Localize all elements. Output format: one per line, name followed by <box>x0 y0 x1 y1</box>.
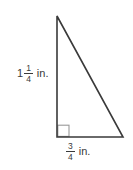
left-side-fraction-denominator: 4 <box>24 74 33 84</box>
bottom-side-unit: in. <box>79 146 91 157</box>
left-side-whole-number: 1 <box>17 68 23 79</box>
bottom-side-fraction: 3 4 <box>66 142 75 162</box>
bottom-side-label: 3 4 in. <box>66 140 90 163</box>
triangle-outline <box>57 16 123 137</box>
left-side-unit: in. <box>37 68 49 79</box>
bottom-side-fraction-denominator: 4 <box>66 152 75 162</box>
left-side-label: 1 1 4 in. <box>17 61 48 86</box>
left-side-fraction: 1 4 <box>24 64 33 84</box>
right-angle-marker-icon <box>58 125 69 136</box>
left-side-fraction-numerator: 1 <box>24 64 33 75</box>
bottom-side-fraction-numerator: 3 <box>66 142 75 153</box>
